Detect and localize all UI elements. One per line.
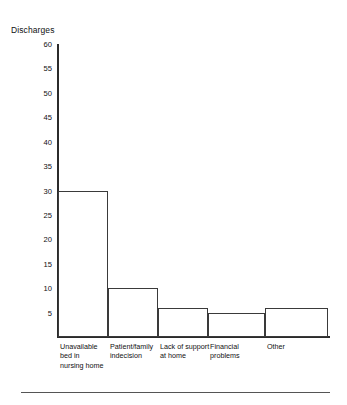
y-axis-tick-60: 60 <box>44 40 52 49</box>
y-axis-tick-55: 55 <box>44 64 52 73</box>
x-axis-label-line: Other <box>267 342 344 351</box>
y-axis-tick-20: 20 <box>44 235 52 244</box>
bar-2 <box>108 288 158 337</box>
y-axis-tick-35: 35 <box>44 162 52 171</box>
x-axis-label-line: problems <box>210 351 281 360</box>
y-axis-tick-10: 10 <box>44 284 52 293</box>
y-axis-tick-5: 5 <box>48 308 52 317</box>
y-axis-tick-15: 15 <box>44 259 52 268</box>
y-axis-tick-30: 30 <box>44 186 52 195</box>
x-axis-label-line: nursing home <box>60 361 124 370</box>
footer-divider <box>21 392 330 393</box>
bar-chart: Discharges 60555045403530252015105 Unava… <box>0 0 347 405</box>
y-axis-tick-50: 50 <box>44 88 52 97</box>
bar-3 <box>158 308 208 337</box>
x-axis-category-labels: Unavailablebed innursing homePatient/fam… <box>58 342 338 392</box>
bar-5 <box>265 308 328 337</box>
y-axis-tick-40: 40 <box>44 137 52 146</box>
y-axis-tick-45: 45 <box>44 113 52 122</box>
bar-4 <box>208 313 265 337</box>
plot-area <box>58 44 330 337</box>
bar-1 <box>58 191 108 338</box>
chart-title: Discharges <box>11 25 55 35</box>
x-axis-label-5: Other <box>267 342 344 351</box>
y-axis-tick-25: 25 <box>44 210 52 219</box>
y-axis-tick-labels: 60555045403530252015105 <box>0 44 58 337</box>
